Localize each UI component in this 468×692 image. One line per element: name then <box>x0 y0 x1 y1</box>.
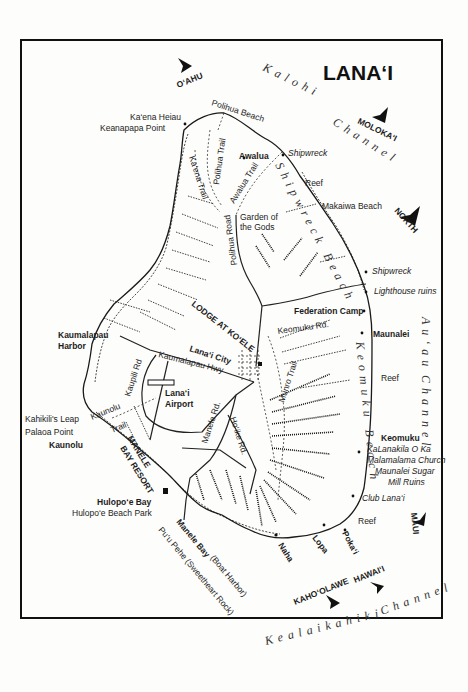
label-kaunolu-trail-1: Kaunolu <box>89 401 122 422</box>
label-kalohi: Kalohi <box>260 60 323 100</box>
label-keomuku: Keomuku <box>381 433 420 443</box>
lanai-map: LANA‘I <box>0 0 468 692</box>
label-polihua-trail: Polihua Trail <box>211 137 227 185</box>
label-pokai: Poka‘i <box>340 529 361 556</box>
hawaii-arrow-icon <box>370 582 384 594</box>
label-kaumalapau-harbor-2: Harbor <box>58 341 87 351</box>
label-maunalei-sugar-2: Mill Ruins <box>388 477 426 487</box>
label-hawaii: HAWAI‘I <box>352 563 386 584</box>
label-makaiwa-beach: Makaiwa Beach <box>322 201 382 211</box>
label-shipwreck-east: Shipwreck <box>372 266 412 276</box>
label-kalanakila-1: KaLanakila O Ka <box>367 444 431 454</box>
label-kahikilis-leap: Kahikili's Leap <box>25 414 79 424</box>
label-oahu: O‘AHU <box>175 70 204 90</box>
label-kealaikahiki: Kealaikahiki <box>262 605 384 648</box>
label-shipwreck-north: Shipwreck <box>288 148 328 158</box>
label-hulopoe-beach-park: Hulopo‘e Beach Park <box>72 508 153 518</box>
label-manele-rd: Manele Rd. <box>199 400 222 444</box>
label-federation-camp: Federation Camp <box>294 306 363 316</box>
label-hulopoe-bay: Hulopo‘e Bay <box>97 497 152 507</box>
oahu-arrow-icon <box>178 58 192 73</box>
label-munro-trail: Munro Trail <box>276 360 299 404</box>
label-kahoolawe: KAHO‘OLAWE <box>292 576 350 607</box>
kahoolawe-arrow-icon <box>326 595 340 609</box>
label-lighthouse-ruins: Lighthouse ruins <box>374 286 437 296</box>
label-kaunolu-trail-2: Trail <box>109 419 128 434</box>
label-garden-of-the-gods-2: the Gods <box>240 222 275 232</box>
label-lopa: Lopa <box>310 533 331 555</box>
label-hoike-rd: Ho‘ike Rd. <box>228 416 250 456</box>
airport-runway <box>148 380 174 385</box>
label-lanai-airport-1: Lana‘i <box>165 388 190 398</box>
label-club-lanai: Club Lana‘i <box>362 493 406 503</box>
label-kaunolu: Kaunolu <box>49 440 83 450</box>
label-auau: Au‘au <box>419 316 433 371</box>
label-auau-channel: Channel <box>419 375 433 451</box>
label-maui: MAUI <box>409 512 421 535</box>
molokai-arrow-icon <box>372 107 388 123</box>
label-maunalei: Maunalei <box>373 329 409 339</box>
label-palaoa-point: Palaoa Point <box>25 427 74 437</box>
label-lanai-airport-2: Airport <box>165 399 194 409</box>
label-maunalei-sugar-1: Maunalei Sugar <box>375 466 436 476</box>
label-kalanakila-2: Malamalama Church <box>367 455 446 465</box>
label-kaena-heiau: Ka‘ena Heiau <box>130 112 181 122</box>
label-awalua: Awalua <box>239 151 269 161</box>
label-keomuku-rd: Keomuku Rd. <box>277 319 329 336</box>
label-kaumalapau-harbor-1: Kaumalapau <box>58 330 109 340</box>
label-garden-of-the-gods-1: Garden of <box>240 212 278 222</box>
label-naha: Naha <box>276 541 296 564</box>
label-reef-south: Reef <box>358 516 377 526</box>
label-reef-east: Reef <box>381 373 400 383</box>
label-kaena-trail: Ka‘ena Trail <box>187 155 210 201</box>
map-title: LANA‘I <box>323 61 393 84</box>
label-kaupili-rd: Kaupili Rd <box>122 357 144 397</box>
label-reef-north: Reef <box>305 178 324 188</box>
label-keanapapa-point: Keanapapa Point <box>100 123 166 133</box>
